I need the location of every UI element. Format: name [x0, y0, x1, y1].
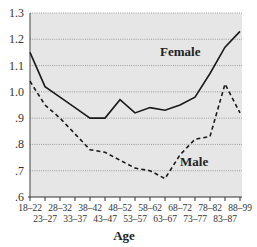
plot-area [30, 13, 242, 197]
x-tick-label: 68–72 [168, 203, 192, 213]
x-tick-label: 33–37 [63, 214, 87, 224]
x-tick-label: 38–42 [78, 203, 102, 213]
x-axis: 18–2223–2728–3233–3738–4243–4748–5253–57… [18, 197, 252, 224]
x-tick-label: 58–62 [138, 203, 162, 213]
x-tick-label: 83–87 [213, 214, 237, 224]
y-tick-label: .9 [15, 111, 24, 125]
line-chart: 1.31.21.11.0.9.8.7.6 18–2223–2728–3233–3… [0, 0, 257, 247]
x-tick-label: 73–77 [183, 214, 207, 224]
x-tick-label: 53–57 [123, 214, 147, 224]
x-tick-label: 48–52 [108, 203, 132, 213]
x-tick-label: 88–99 [228, 203, 252, 213]
x-tick-label: 28–32 [48, 203, 72, 213]
x-tick-label: 23–27 [33, 214, 57, 224]
x-tick-label: 43–47 [93, 214, 117, 224]
x-axis-title: Age [113, 228, 135, 243]
female-series-label: Female [160, 44, 201, 59]
y-tick-label: 1.2 [9, 32, 24, 46]
y-tick-label: 1.3 [9, 6, 24, 20]
y-tick-label: 1.1 [9, 59, 24, 73]
x-tick-label: 63–67 [153, 214, 177, 224]
y-tick-label: 1.0 [9, 85, 24, 99]
male-series-label: Male [180, 154, 208, 169]
y-tick-label: .8 [15, 137, 24, 151]
y-axis: 1.31.21.11.0.9.8.7.6 [9, 6, 30, 204]
x-tick-label: 78–82 [198, 203, 222, 213]
y-tick-label: .6 [15, 190, 24, 204]
y-tick-label: .7 [15, 164, 24, 178]
x-tick-label: 18–22 [18, 203, 42, 213]
